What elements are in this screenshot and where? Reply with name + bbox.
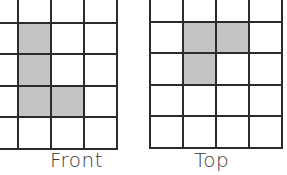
grid-cell: [248, 0, 283, 23]
grid-cell: [83, 85, 118, 119]
grid-cell-shaded: [215, 21, 250, 55]
grid-cell-shaded: [182, 21, 217, 55]
grid-cell: [215, 52, 250, 86]
grid-cell: [182, 115, 217, 149]
grid-cell: [83, 53, 118, 87]
grid-cell: [83, 22, 118, 56]
grid-cell: [215, 0, 250, 23]
grid-cell: [149, 21, 184, 55]
grid-cell: [215, 84, 250, 118]
grid-cell: [149, 115, 184, 149]
grid-cell: [50, 53, 85, 87]
grid-cell: [248, 84, 283, 118]
grid-cell: [17, 116, 52, 150]
grid-cell: [149, 52, 184, 86]
grid-cell: [248, 115, 283, 149]
grid-cell: [149, 84, 184, 118]
grid-cell: [17, 0, 52, 24]
grid-cell: [50, 0, 85, 24]
grid-cell-shaded: [182, 52, 217, 86]
grid-cell-shaded: [17, 53, 52, 87]
grid-cell-shaded: [50, 85, 85, 119]
grid-cell: [149, 0, 184, 23]
grid-cell: [248, 21, 283, 55]
grid-cell: [83, 0, 118, 24]
grid-cell: [50, 116, 85, 150]
grid-cell: [182, 84, 217, 118]
top-view-label: Top: [194, 148, 229, 172]
grid-cell: [215, 115, 250, 149]
grid-cell: [248, 52, 283, 86]
grid-cell: [182, 0, 217, 23]
grid-cell: [50, 22, 85, 56]
grid-cell-shaded: [17, 85, 52, 119]
front-view-label: Front: [50, 148, 103, 172]
grid-cell-shaded: [17, 22, 52, 56]
grid-cell: [83, 116, 118, 150]
